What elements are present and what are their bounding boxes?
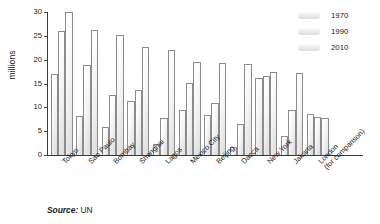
source-label: Source: — [47, 205, 78, 215]
bar — [255, 78, 262, 155]
source-value: UN — [78, 205, 92, 215]
bar — [91, 30, 98, 155]
legend-item: 2010 — [298, 39, 374, 55]
y-tick-label-5: 5 — [22, 127, 42, 135]
legend-swatch-icon — [298, 44, 320, 51]
bar — [51, 74, 58, 155]
bar — [237, 124, 244, 155]
y-tick-label-15: 15 — [22, 80, 42, 88]
bar-group — [127, 12, 149, 155]
bar — [116, 35, 123, 155]
legend-label: 1970 — [331, 11, 348, 20]
y-axis-title: millions — [7, 35, 17, 95]
bar-group — [102, 12, 124, 155]
bar-group — [179, 12, 201, 155]
legend-label: 1990 — [331, 27, 348, 36]
y-tick-label-10: 10 — [22, 103, 42, 111]
y-tick-label-0: 0 — [22, 151, 42, 159]
bar — [160, 118, 167, 155]
bar — [83, 65, 90, 155]
bar-group — [230, 12, 252, 155]
bar — [142, 47, 149, 155]
y-tick-label-20: 20 — [22, 56, 42, 64]
bar-group — [76, 12, 98, 155]
bar — [219, 63, 226, 155]
bar — [314, 117, 321, 155]
bar — [244, 64, 251, 155]
legend-swatch-icon — [298, 28, 320, 35]
bar — [186, 83, 193, 155]
legend: 197019902010 — [298, 7, 374, 55]
bar — [168, 50, 175, 155]
bar-group — [51, 12, 73, 155]
bar — [263, 76, 270, 155]
legend-item: 1990 — [298, 23, 374, 39]
bar — [270, 72, 277, 155]
bar — [65, 12, 72, 155]
bar — [193, 62, 200, 155]
bar-group — [153, 12, 175, 155]
legend-swatch-icon — [298, 12, 320, 19]
bar — [296, 73, 303, 155]
bar-group — [255, 12, 277, 155]
source-note: Source: UN — [47, 205, 93, 215]
y-tick-label-25: 25 — [22, 32, 42, 40]
y-tick-label-30: 30 — [22, 8, 42, 16]
population-bar-chart: millions 051015202530 TokyoSao PauloBomb… — [0, 0, 380, 224]
bar — [58, 31, 65, 155]
legend-item: 1970 — [298, 7, 374, 23]
legend-label: 2010 — [331, 43, 348, 52]
